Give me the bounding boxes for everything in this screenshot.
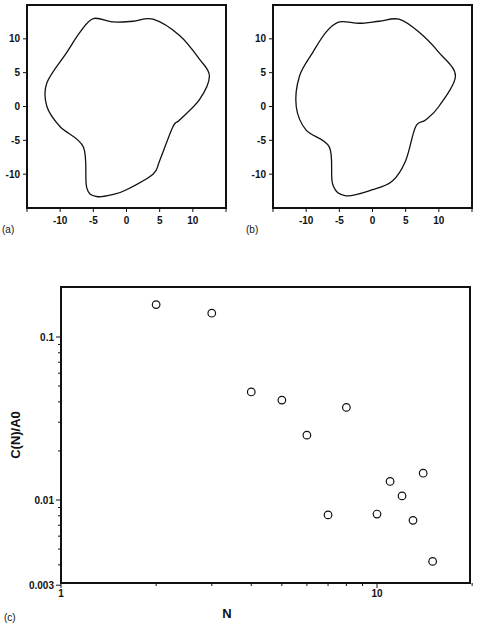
panel-c: 1100.10.010.003NC(N)/A0(c) — [4, 287, 472, 623]
data-point — [208, 309, 216, 317]
y-tick-label: 0 — [14, 101, 20, 112]
x-tick-label: -5 — [89, 215, 98, 226]
contour-outline — [45, 18, 210, 197]
y-tick-label: 0.003 — [29, 580, 54, 591]
y-tick-label: -10 — [6, 169, 21, 180]
y-tick-label: -5 — [11, 135, 20, 146]
x-tick-label: 0 — [370, 215, 376, 226]
x-tick-label: 10 — [187, 215, 199, 226]
x-tick-label: 10 — [371, 588, 383, 599]
x-tick-label: -10 — [53, 215, 68, 226]
x-tick-label: 5 — [403, 215, 409, 226]
data-point — [419, 469, 427, 477]
x-tick-label: 5 — [157, 215, 163, 226]
x-axis-title: N — [222, 606, 231, 621]
data-point — [324, 511, 332, 519]
plot-frame — [273, 5, 472, 208]
y-tick-label: -10 — [252, 169, 267, 180]
x-tick-label: -10 — [299, 215, 314, 226]
data-point — [373, 510, 381, 518]
panel-b: -10-505101050-5-10(b) — [246, 5, 472, 235]
plot-frame — [27, 5, 226, 208]
data-point — [429, 558, 437, 566]
data-point — [409, 517, 417, 525]
data-point — [386, 478, 394, 486]
x-tick-label: 1 — [58, 588, 64, 599]
y-tick-label: 5 — [14, 67, 20, 78]
data-point — [247, 388, 255, 396]
data-point — [152, 301, 160, 309]
x-tick-label: -5 — [335, 215, 344, 226]
x-tick-label: 10 — [433, 215, 445, 226]
panel-a: -10-505101050-5-10(a) — [2, 5, 226, 235]
panel-label: (c) — [4, 612, 16, 623]
data-point — [278, 396, 286, 404]
figure: -10-505101050-5-10(a)-10-505101050-5-10(… — [0, 0, 483, 635]
y-tick-label: 10 — [255, 33, 267, 44]
y-tick-label: 10 — [9, 33, 21, 44]
x-tick-label: 0 — [124, 215, 130, 226]
panel-label: (a) — [2, 224, 14, 235]
panel-label: (b) — [246, 224, 258, 235]
y-tick-label: 0.1 — [40, 332, 54, 343]
data-point — [343, 404, 351, 412]
y-tick-label: -5 — [257, 135, 266, 146]
contour-outline — [296, 19, 456, 196]
data-point — [398, 492, 406, 500]
y-tick-label: 0 — [260, 101, 266, 112]
data-point — [303, 431, 311, 439]
y-tick-label: 5 — [260, 67, 266, 78]
plot-frame — [61, 287, 470, 583]
y-tick-label: 0.01 — [35, 495, 55, 506]
y-axis-title: C(N)/A0 — [8, 411, 23, 459]
